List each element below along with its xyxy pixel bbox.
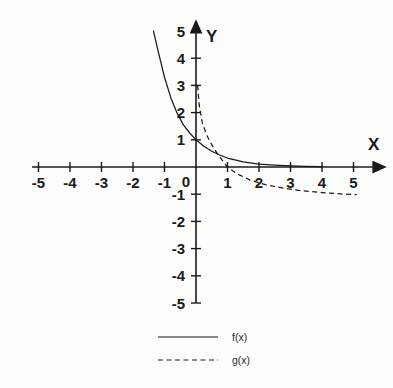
graph-figure: -5-4-3-2-1123450 -5-4-3-2-112345 X Y f(x… — [0, 0, 393, 388]
legend-label-g-of-x: g(x) — [232, 354, 250, 366]
legend-label-f-of-x: f(x) — [232, 331, 247, 343]
curve-g-of-x — [198, 85, 357, 194]
y-axis-label: Y — [206, 27, 218, 46]
x-tick-label--5: -5 — [32, 174, 45, 191]
legend: f(x) g(x) — [158, 331, 250, 366]
x-tick-label-1: 1 — [223, 174, 231, 191]
y-tick-label--3: -3 — [172, 240, 185, 257]
y-tick-label--1: -1 — [172, 186, 185, 203]
x-axis-label: X — [368, 135, 380, 154]
x-tick-label-4: 4 — [318, 174, 327, 191]
y-tick-label-1: 1 — [177, 131, 185, 148]
x-tick-label--3: -3 — [95, 174, 108, 191]
x-tick-label-5: 5 — [349, 174, 357, 191]
x-tick-label--2: -2 — [126, 174, 139, 191]
y-tick-label--2: -2 — [172, 213, 185, 230]
y-tick-label-3: 3 — [177, 77, 185, 94]
y-tick-label-2: 2 — [177, 104, 185, 121]
x-tick-label-2: 2 — [255, 174, 263, 191]
x-tick-label--4: -4 — [63, 174, 77, 191]
axes-group — [32, 32, 374, 303]
y-tick-label-5: 5 — [177, 23, 185, 40]
function-plot-svg: -5-4-3-2-1123450 -5-4-3-2-112345 X Y f(x… — [0, 0, 393, 388]
x-tick-label--1: -1 — [158, 174, 171, 191]
y-tick-label--5: -5 — [172, 295, 185, 312]
x-axis-tick-labels: -5-4-3-2-1123450 — [32, 173, 358, 191]
y-tick-label--4: -4 — [172, 267, 186, 284]
y-tick-label-4: 4 — [177, 50, 186, 67]
